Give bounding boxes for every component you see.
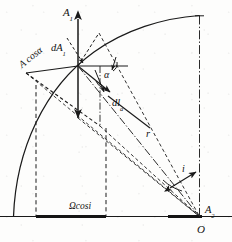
dA-dashed-line — [78, 33, 99, 66]
label-dl: dla — [112, 98, 123, 111]
diagram-svg — [0, 0, 232, 242]
converging-rays-group — [26, 33, 200, 217]
label-omega-cos-i: Ωcosi — [69, 202, 91, 212]
label-a2: A2 — [205, 205, 215, 218]
radius-dashdot-r — [78, 66, 200, 217]
label-a1: A1 — [63, 7, 73, 21]
angle-i-arc — [163, 180, 182, 191]
vertical-axis-group — [195, 16, 204, 217]
label-origin: O — [197, 224, 205, 235]
label-alpha: α — [104, 70, 109, 80]
dA-indicator-arrow — [67, 38, 83, 63]
label-r: r — [146, 129, 150, 140]
label-dA: dA1 — [51, 43, 66, 56]
horizontal-reference-group — [78, 66, 128, 126]
label-i: i — [182, 164, 185, 174]
radius-group — [78, 66, 200, 217]
ray-dashed-upper — [99, 33, 200, 217]
ray-dashed-outer — [26, 73, 200, 217]
figure-canvas: A1 dA1 A cosα α dla r i Ωcosi A2 O — [0, 0, 232, 242]
